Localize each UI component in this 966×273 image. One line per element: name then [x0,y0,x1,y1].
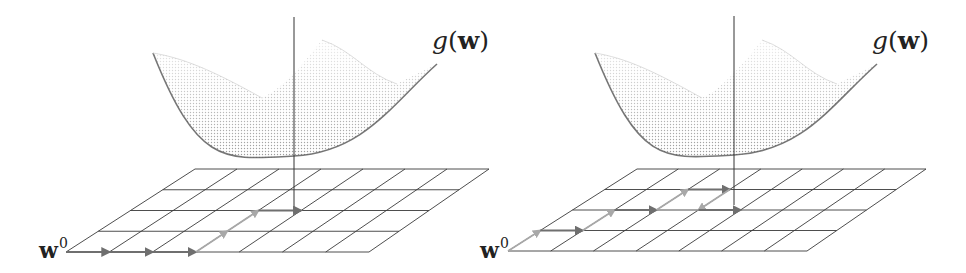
bowl-surface [153,40,437,158]
step-arrow-diagonal [657,190,689,211]
start-point-label-w0: w0 [39,236,68,261]
function-label-g-w: g(w) [432,28,489,53]
function-argument: w [898,26,920,55]
panel-right [508,16,926,251]
close-paren: ) [479,26,489,55]
step-arrow-diagonal [583,210,615,231]
open-paren: ( [448,26,458,55]
start-point-base: w [480,237,499,263]
step-arrow-diagonal [699,190,730,211]
start-point-superscript: 0 [59,235,68,251]
coordinate-descent-path [508,190,741,252]
bowl-highlight [153,40,437,158]
function-argument: w [458,26,480,55]
bowl-highlight [595,40,877,157]
panel-left [66,17,489,252]
start-point-label-w0: w0 [480,236,509,261]
start-point-base: w [39,237,58,263]
function-label-g-w: g(w) [872,28,929,53]
step-arrow-diagonal [196,231,227,252]
function-name: g [432,26,448,55]
start-point-superscript: 0 [500,235,509,251]
function-name: g [872,26,888,55]
step-arrow-diagonal [227,211,258,232]
open-paren: ( [888,26,898,55]
bowl-surface [595,40,877,157]
close-paren: ) [919,26,929,55]
figure: g(w) w0 g(w) w0 [0,0,966,273]
step-arrow-diagonal [508,231,540,252]
